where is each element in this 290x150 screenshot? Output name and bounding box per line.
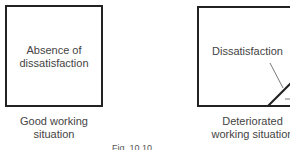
figure-caption: Fig. 10.10 [112,143,152,150]
dissatisfaction-wedge-lines [0,0,290,150]
